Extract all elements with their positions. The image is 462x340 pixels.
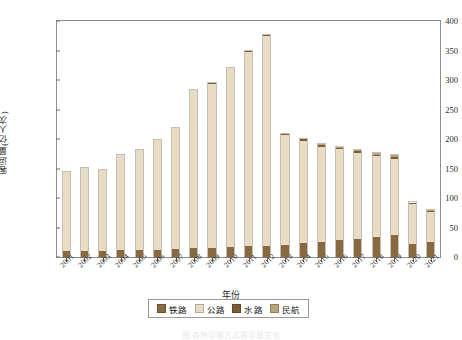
- bar-segment-铁路: [281, 245, 288, 257]
- bar-segment-铁路: [81, 251, 88, 257]
- bar-segment-民航: [300, 138, 307, 139]
- bar-2009[interactable]: [207, 82, 216, 258]
- bar-segment-铁路: [300, 243, 307, 257]
- bar-segment-公路: [172, 128, 179, 249]
- bar-segment-公路: [427, 212, 434, 242]
- bar-segment-铁路: [318, 242, 325, 257]
- bar-segment-水路: [263, 34, 270, 36]
- bar-segment-铁路: [336, 240, 343, 257]
- legend-swatch-icon: [157, 304, 166, 313]
- legend-item-水路[interactable]: 水路: [232, 303, 263, 315]
- bar-segment-水路: [172, 127, 179, 128]
- legend-item-铁路[interactable]: 铁路: [157, 303, 188, 315]
- bar-segment-公路: [81, 168, 88, 251]
- bar-segment-公路: [373, 156, 380, 237]
- bar-segment-铁路: [154, 250, 161, 257]
- bar-segment-公路: [190, 90, 197, 248]
- bar-2006[interactable]: [153, 139, 162, 258]
- bar-segment-公路: [227, 68, 234, 247]
- bar-2001[interactable]: [62, 171, 71, 258]
- bar-segment-民航: [318, 143, 325, 145]
- bar-segment-民航: [354, 149, 361, 151]
- bar-segment-公路: [263, 36, 270, 246]
- bar-segment-公路: [354, 153, 361, 239]
- bar-segment-公路: [409, 203, 416, 244]
- bar-segment-水路: [300, 139, 307, 141]
- bar-segment-民航: [227, 67, 234, 68]
- bar-segment-水路: [354, 151, 361, 153]
- bar-segment-公路: [391, 159, 398, 236]
- bar-segment-民航: [263, 34, 270, 35]
- bar-segment-铁路: [227, 247, 234, 257]
- bar-2005[interactable]: [135, 149, 144, 258]
- bar-2013[interactable]: [280, 133, 289, 258]
- bar-2004[interactable]: [116, 154, 125, 258]
- bar-segment-民航: [409, 201, 416, 202]
- legend-swatch-icon: [270, 304, 279, 313]
- bar-segment-民航: [281, 133, 288, 134]
- bar-segment-水路: [336, 148, 343, 150]
- bar-segment-民航: [245, 50, 252, 51]
- bar-segment-铁路: [190, 248, 197, 257]
- bar-2014[interactable]: [299, 138, 308, 258]
- bar-segment-铁路: [409, 244, 416, 257]
- bar-segment-铁路: [263, 246, 270, 257]
- bar-segment-公路: [281, 135, 288, 244]
- bar-segment-公路: [117, 155, 124, 251]
- bar-segment-水路: [190, 89, 197, 90]
- bar-segment-水路: [245, 51, 252, 52]
- bar-2018[interactable]: [372, 152, 381, 258]
- bar-segment-公路: [336, 149, 343, 240]
- bar-segment-铁路: [172, 249, 179, 257]
- legend-item-公路[interactable]: 公路: [195, 303, 226, 315]
- bar-segment-水路: [117, 154, 124, 155]
- bar-segment-水路: [281, 134, 288, 135]
- bar-segment-公路: [208, 84, 215, 248]
- legend-label: 水路: [244, 303, 263, 315]
- bar-segment-水路: [99, 169, 106, 170]
- bar-segment-铁路: [373, 237, 380, 257]
- bar-segment-水路: [373, 155, 380, 157]
- legend-label: 公路: [207, 303, 226, 315]
- bar-2012[interactable]: [262, 34, 271, 258]
- bar-2020[interactable]: [408, 201, 417, 258]
- bar-segment-铁路: [427, 242, 434, 257]
- bar-segment-公路: [63, 172, 70, 251]
- bar-2015[interactable]: [317, 143, 326, 258]
- bar-2017[interactable]: [353, 149, 362, 258]
- bar-segment-水路: [63, 171, 70, 172]
- bar-segment-铁路: [354, 239, 361, 257]
- bar-segment-铁路: [117, 250, 124, 257]
- legend-swatch-icon: [232, 304, 241, 313]
- bar-2008[interactable]: [189, 89, 198, 258]
- bar-segment-水路: [81, 167, 88, 168]
- bar-segment-公路: [300, 141, 307, 243]
- bars-layer: [57, 21, 440, 258]
- bar-segment-水路: [208, 83, 215, 84]
- bar-segment-民航: [373, 152, 380, 155]
- bar-2011[interactable]: [244, 50, 253, 258]
- legend-label: 民航: [282, 303, 301, 315]
- bar-2002[interactable]: [80, 167, 89, 258]
- bar-2010[interactable]: [226, 67, 235, 258]
- bar-segment-水路: [318, 145, 325, 147]
- legend-item-民航[interactable]: 民航: [270, 303, 301, 315]
- bar-segment-民航: [391, 154, 398, 157]
- bar-segment-水路: [136, 149, 143, 150]
- bar-segment-民航: [336, 146, 343, 148]
- bar-segment-公路: [154, 140, 161, 250]
- bar-2019[interactable]: [390, 154, 399, 258]
- legend-label: 铁路: [169, 303, 188, 315]
- bar-segment-公路: [245, 52, 252, 246]
- bar-segment-水路: [409, 203, 416, 204]
- bar-2007[interactable]: [171, 127, 180, 259]
- y-axis-title: 客运量(亿人次): [0, 88, 17, 198]
- bar-segment-铁路: [208, 248, 215, 257]
- bar-2003[interactable]: [98, 169, 107, 258]
- bar-segment-公路: [318, 147, 325, 243]
- bar-2021[interactable]: [426, 209, 435, 258]
- bar-segment-水路: [391, 157, 398, 159]
- chart-legend: 铁路公路水路民航: [148, 299, 309, 318]
- bar-2016[interactable]: [335, 146, 344, 258]
